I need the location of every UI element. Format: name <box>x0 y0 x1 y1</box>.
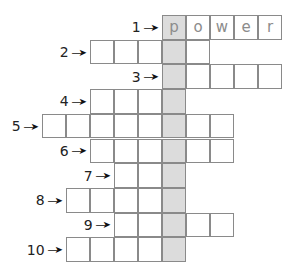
clue-number: 6 <box>60 143 69 159</box>
grid-cell-row2-col4[interactable] <box>162 40 186 65</box>
clue-number: 9 <box>84 217 93 233</box>
clue-number: 8 <box>36 192 45 208</box>
grid-cell-row6-col3[interactable] <box>138 139 162 164</box>
clue-number-4: 4—➤ <box>60 89 84 114</box>
clue-number-5: 5—➤ <box>12 114 36 139</box>
grid-cell-row6-col1[interactable] <box>90 139 114 164</box>
grid-cell-row9-col4[interactable] <box>186 213 210 238</box>
grid-cell-row2-col1[interactable] <box>90 40 114 65</box>
grid-cell-row5-col2[interactable] <box>66 114 90 139</box>
grid-cell-row1-col2[interactable]: o <box>186 15 210 40</box>
grid-cell-row6-col6[interactable] <box>210 139 234 164</box>
clue-number: 1 <box>132 19 141 35</box>
grid-cell-row7-col3[interactable] <box>162 163 186 188</box>
arrow-right-icon: —➤ <box>96 219 108 230</box>
grid-cell-row5-col5[interactable] <box>138 114 162 139</box>
grid-cell-row7-col2[interactable] <box>138 163 162 188</box>
grid-cell-row8-col2[interactable] <box>90 188 114 213</box>
grid-cell-row4-col2[interactable] <box>114 89 138 114</box>
clue-number: 7 <box>84 168 93 184</box>
grid-cell-row1-col3[interactable]: w <box>210 15 234 40</box>
clue-number-10: 10—➤ <box>27 237 60 262</box>
clue-number: 4 <box>60 93 69 109</box>
grid-cell-row9-col2[interactable] <box>138 213 162 238</box>
grid-cell-row5-col7[interactable] <box>186 114 210 139</box>
grid-cell-row5-col8[interactable] <box>210 114 234 139</box>
grid-cell-row3-col4[interactable] <box>234 64 258 89</box>
grid-cell-row8-col3[interactable] <box>114 188 138 213</box>
grid-cell-row5-col3[interactable] <box>90 114 114 139</box>
arrow-right-icon: —➤ <box>144 22 156 33</box>
grid-cell-row1-col1[interactable]: p <box>162 15 186 40</box>
grid-cell-row4-col4[interactable] <box>162 89 186 114</box>
grid-cell-row6-col5[interactable] <box>186 139 210 164</box>
clue-number: 3 <box>132 69 141 85</box>
grid-cell-row5-col4[interactable] <box>114 114 138 139</box>
clue-number-7: 7—➤ <box>84 163 108 188</box>
grid-cell-row9-col3[interactable] <box>162 213 186 238</box>
clue-number-9: 9—➤ <box>84 213 108 238</box>
grid-cell-row1-col5[interactable]: r <box>258 15 282 40</box>
arrow-right-icon: —➤ <box>96 170 108 181</box>
grid-cell-row4-col1[interactable] <box>90 89 114 114</box>
clue-number-1: 1—➤ <box>132 15 156 40</box>
clue-number: 5 <box>12 118 21 134</box>
grid-cell-row9-col1[interactable] <box>114 213 138 238</box>
grid-cell-row2-col3[interactable] <box>138 40 162 65</box>
grid-cell-row8-col5[interactable] <box>162 188 186 213</box>
clue-number-8: 8—➤ <box>36 188 60 213</box>
grid-cell-row5-col6[interactable] <box>162 114 186 139</box>
grid-cell-row3-col3[interactable] <box>210 64 234 89</box>
grid-cell-row10-col2[interactable] <box>90 237 114 262</box>
grid-cell-row3-col5[interactable] <box>258 64 282 89</box>
arrow-right-icon: —➤ <box>24 121 36 132</box>
grid-cell-row9-col5[interactable] <box>210 213 234 238</box>
arrow-right-icon: —➤ <box>48 244 60 255</box>
grid-cell-row6-col2[interactable] <box>114 139 138 164</box>
grid-cell-row10-col5[interactable] <box>162 237 186 262</box>
grid-cell-row2-col2[interactable] <box>114 40 138 65</box>
grid-cell-row7-col1[interactable] <box>114 163 138 188</box>
grid-cell-row3-col2[interactable] <box>186 64 210 89</box>
clue-number-3: 3—➤ <box>132 64 156 89</box>
grid-cell-row3-col1[interactable] <box>162 64 186 89</box>
arrow-right-icon: —➤ <box>72 145 84 156</box>
grid-cell-row2-col5[interactable] <box>186 40 210 65</box>
clue-number: 10 <box>27 242 45 258</box>
grid-cell-row1-col4[interactable]: e <box>234 15 258 40</box>
grid-cell-row10-col4[interactable] <box>138 237 162 262</box>
arrow-right-icon: —➤ <box>48 195 60 206</box>
arrow-right-icon: —➤ <box>144 71 156 82</box>
grid-cell-row10-col1[interactable] <box>66 237 90 262</box>
grid-cell-row10-col3[interactable] <box>114 237 138 262</box>
grid-cell-row8-col1[interactable] <box>66 188 90 213</box>
clue-number-6: 6—➤ <box>60 139 84 164</box>
clue-number-2: 2—➤ <box>60 40 84 65</box>
arrow-right-icon: —➤ <box>72 96 84 107</box>
grid-cell-row4-col3[interactable] <box>138 89 162 114</box>
arrow-right-icon: —➤ <box>72 47 84 58</box>
grid-cell-row5-col1[interactable] <box>42 114 66 139</box>
clue-number: 2 <box>60 44 69 60</box>
grid-cell-row6-col4[interactable] <box>162 139 186 164</box>
grid-cell-row8-col4[interactable] <box>138 188 162 213</box>
